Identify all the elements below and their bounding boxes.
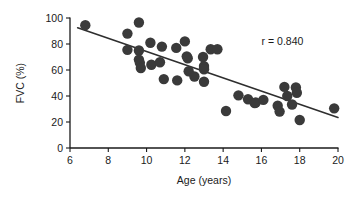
data-point	[233, 90, 243, 100]
data-point	[295, 115, 305, 125]
data-points	[80, 17, 339, 125]
x-tick-label: 14	[217, 154, 229, 166]
data-point	[157, 41, 167, 51]
x-axis-title: Age (years)	[177, 174, 231, 186]
data-point	[136, 63, 146, 73]
y-tick-label: 60	[51, 64, 63, 76]
x-tick-label: 10	[141, 154, 153, 166]
data-point	[155, 57, 165, 67]
data-point	[171, 43, 181, 53]
data-point	[122, 28, 132, 38]
data-point	[183, 53, 193, 63]
data-point	[212, 44, 222, 54]
x-tick-label: 16	[256, 154, 268, 166]
axis-labels: 02040608010068101214161820Age (years)FVC…	[14, 12, 344, 186]
data-point	[80, 20, 90, 30]
scatter-plot-figure: 02040608010068101214161820Age (years)FVC…	[0, 0, 362, 202]
y-tick-label: 40	[51, 90, 63, 102]
data-point	[122, 45, 132, 55]
x-tick-label: 18	[294, 154, 306, 166]
data-point	[172, 75, 182, 85]
y-tick-label: 80	[51, 38, 63, 50]
y-axis-title: FVC (%)	[14, 63, 26, 103]
data-point	[199, 77, 209, 87]
y-tick-label: 0	[57, 142, 63, 154]
data-point	[145, 38, 155, 48]
data-point	[189, 71, 199, 81]
data-point	[274, 106, 284, 116]
chart-canvas: 02040608010068101214161820Age (years)FVC…	[0, 0, 362, 202]
data-point	[180, 36, 190, 46]
x-tick-label: 8	[105, 154, 111, 166]
data-point	[329, 103, 339, 113]
y-tick-label: 20	[51, 116, 63, 128]
x-tick-label: 6	[67, 154, 73, 166]
data-point	[221, 106, 231, 116]
x-tick-label: 20	[332, 154, 344, 166]
data-point	[279, 82, 289, 92]
data-point	[199, 64, 209, 74]
data-point	[287, 99, 297, 109]
correlation-annotation: r = 0.840	[262, 35, 304, 47]
data-point	[258, 95, 268, 105]
y-tick-label: 100	[45, 12, 63, 24]
data-point	[134, 17, 144, 27]
data-point	[159, 74, 169, 84]
data-point	[198, 52, 208, 62]
data-point	[292, 88, 302, 98]
x-tick-label: 12	[179, 154, 191, 166]
data-point	[134, 45, 144, 55]
